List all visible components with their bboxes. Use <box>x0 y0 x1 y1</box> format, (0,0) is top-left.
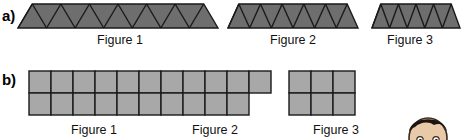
triangle-strip-figure-1 <box>18 4 218 28</box>
square-grid-figure-1 <box>28 70 162 116</box>
row-a-label: a) <box>2 8 15 23</box>
triangle-strip-figure-3 <box>372 4 460 28</box>
square-grid-figure-3 <box>288 70 356 116</box>
triangle-strip-figure-2 <box>228 4 358 28</box>
caption-row-a-figure-2: Figure 2 <box>243 34 343 47</box>
caption-row-b-figure-3: Figure 3 <box>270 124 402 137</box>
row-b-label: b) <box>2 72 16 87</box>
caption-row-b-figure-2: Figure 2 <box>152 124 278 137</box>
caption-row-a-figure-1: Figure 1 <box>70 34 170 47</box>
square-grid-figure-2 <box>160 70 272 116</box>
caption-row-b-figure-1: Figure 1 <box>28 124 160 137</box>
caption-row-a-figure-3: Figure 3 <box>360 34 460 47</box>
cartoon-boy-face-icon <box>398 104 458 140</box>
